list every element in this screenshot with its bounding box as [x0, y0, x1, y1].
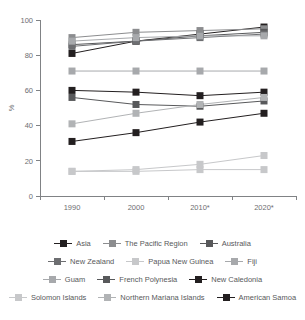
- legend-swatch-icon: [54, 239, 72, 248]
- data-point: [197, 92, 204, 99]
- legend-item-label: Guam: [65, 275, 85, 284]
- svg-text:100: 100: [20, 16, 33, 25]
- legend-swatch-marker: [132, 258, 139, 265]
- data-point: [133, 129, 140, 136]
- legend-item-label: French Polynesia: [119, 275, 177, 284]
- legend-item-label: Asia: [76, 239, 91, 248]
- legend-item-fiji[interactable]: Fiji: [225, 257, 257, 266]
- data-point: [261, 110, 268, 117]
- data-point: [133, 89, 140, 96]
- legend-item-asia[interactable]: Asia: [54, 239, 91, 248]
- svg-text:40: 40: [25, 121, 33, 130]
- series-markers: [69, 94, 268, 110]
- legend-swatch-marker: [206, 240, 213, 247]
- data-point: [69, 168, 76, 175]
- series-line: [72, 113, 264, 141]
- legend-row: GuamFrench PolynesiaNew Caledonia: [6, 270, 299, 288]
- data-point: [69, 138, 76, 145]
- series-markers: [69, 94, 268, 127]
- legend-swatch-marker: [103, 276, 110, 283]
- legend-swatch-marker: [195, 276, 202, 283]
- legend-item-label: Papua New Guinea: [148, 257, 213, 266]
- data-point: [69, 120, 76, 127]
- legend-swatch-icon: [97, 275, 115, 284]
- legend-item-new-caledonia[interactable]: New Caledonia: [189, 275, 262, 284]
- legend-item-label: Fiji: [247, 257, 257, 266]
- data-point: [261, 152, 268, 159]
- series-solomon-islands: [72, 156, 264, 172]
- svg-text:60: 60: [25, 86, 33, 95]
- legend-swatch-marker: [231, 258, 238, 265]
- series-french-polynesia: [72, 97, 264, 106]
- legend-swatch-icon: [98, 293, 116, 302]
- data-point: [197, 101, 204, 108]
- data-point: [69, 68, 76, 75]
- data-point: [197, 68, 204, 75]
- data-point: [133, 101, 140, 108]
- legend-item-label: The Pacific Region: [125, 239, 188, 248]
- legend-row: AsiaThe Pacific RegionAustralia: [6, 234, 299, 252]
- data-point: [261, 68, 268, 75]
- chart-canvas: 020406080100%199020002010*2020*: [0, 0, 305, 228]
- data-point: [69, 87, 76, 94]
- legend-swatch-icon: [103, 239, 121, 248]
- series-northern-mariana-islands: [72, 97, 264, 123]
- data-point: [261, 166, 268, 173]
- data-point: [197, 32, 204, 39]
- series-new-caledonia: [72, 90, 264, 95]
- data-point: [261, 94, 268, 101]
- legend-item-northern-mariana-islands[interactable]: Northern Mariana Islands: [98, 293, 204, 302]
- series-american-samoa: [72, 113, 264, 141]
- legend-item-label: Solomon Islands: [31, 293, 86, 302]
- legend-swatch-marker: [49, 276, 56, 283]
- legend-item-label: Australia: [222, 239, 251, 248]
- legend-item-label: Northern Mariana Islands: [120, 293, 204, 302]
- series-line: [72, 97, 264, 106]
- legend-swatch-icon: [9, 293, 27, 302]
- legend-item-label: New Caledonia: [211, 275, 262, 284]
- legend-item-american-samoa[interactable]: American Samoa: [217, 293, 297, 302]
- legend-swatch-icon: [217, 293, 235, 302]
- data-point: [197, 161, 204, 168]
- legend-item-solomon-islands[interactable]: Solomon Islands: [9, 293, 86, 302]
- legend-item-guam[interactable]: Guam: [43, 275, 85, 284]
- legend-swatch-marker: [54, 258, 61, 265]
- chart-legend: AsiaThe Pacific RegionAustraliaNew Zeala…: [0, 230, 305, 320]
- data-point: [69, 50, 76, 57]
- data-point: [261, 32, 268, 39]
- series-line: [72, 97, 264, 123]
- svg-text:2020*: 2020*: [254, 203, 274, 212]
- data-point: [133, 166, 140, 173]
- legend-item-label: New Zealand: [70, 257, 114, 266]
- svg-text:%: %: [7, 104, 16, 111]
- series-markers: [69, 24, 268, 57]
- legend-swatch-marker: [109, 240, 116, 247]
- legend-swatch-icon: [189, 275, 207, 284]
- series-markers: [69, 87, 268, 99]
- legend-swatch-icon: [126, 257, 144, 266]
- data-point: [69, 38, 76, 45]
- legend-item-new-zealand[interactable]: New Zealand: [48, 257, 114, 266]
- line-chart: 020406080100%199020002010*2020*: [0, 0, 305, 228]
- series-line: [72, 32, 264, 44]
- legend-item-australia[interactable]: Australia: [200, 239, 251, 248]
- legend-swatch-icon: [43, 275, 61, 284]
- svg-text:2000: 2000: [128, 203, 145, 212]
- legend-swatch-marker: [60, 240, 67, 247]
- legend-swatch-icon: [48, 257, 66, 266]
- legend-item-papua-new-guinea[interactable]: Papua New Guinea: [126, 257, 213, 266]
- legend-item-the-pacific-region[interactable]: The Pacific Region: [103, 239, 188, 248]
- legend-row: Solomon IslandsNorthern Mariana IslandsA…: [6, 288, 299, 306]
- legend-swatch-icon: [225, 257, 243, 266]
- svg-text:20: 20: [25, 157, 33, 166]
- legend-swatch-marker: [104, 294, 111, 301]
- legend-item-french-polynesia[interactable]: French Polynesia: [97, 275, 177, 284]
- legend-swatch-icon: [200, 239, 218, 248]
- series-australia: [72, 32, 264, 44]
- legend-swatch-marker: [223, 294, 230, 301]
- legend-row: New ZealandPapua New GuineaFiji: [6, 252, 299, 270]
- data-point: [197, 119, 204, 126]
- chart-page: 020406080100%199020002010*2020* AsiaThe …: [0, 0, 305, 320]
- svg-text:0: 0: [29, 192, 33, 201]
- svg-text:80: 80: [25, 51, 33, 60]
